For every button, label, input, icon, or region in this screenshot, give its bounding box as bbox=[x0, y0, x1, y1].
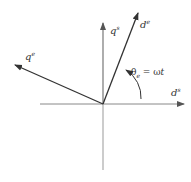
angle-var: t bbox=[161, 67, 165, 77]
angle-label: θe = ωt bbox=[131, 68, 164, 77]
label-ds: ds bbox=[171, 88, 181, 98]
label-ds-sup: s bbox=[177, 86, 180, 93]
de-axis bbox=[103, 13, 138, 104]
qe-axis bbox=[15, 65, 103, 104]
label-de: de bbox=[140, 20, 150, 30]
label-qe-sup: e bbox=[31, 50, 35, 57]
diagram-canvas bbox=[0, 0, 191, 182]
label-qe: qe bbox=[25, 52, 35, 62]
angle-eq: = ω bbox=[140, 67, 161, 77]
label-qs-sup: s bbox=[116, 24, 119, 31]
label-de-sup: e bbox=[146, 18, 150, 25]
label-qs: qs bbox=[110, 26, 120, 36]
angle-sub: e bbox=[136, 72, 140, 79]
